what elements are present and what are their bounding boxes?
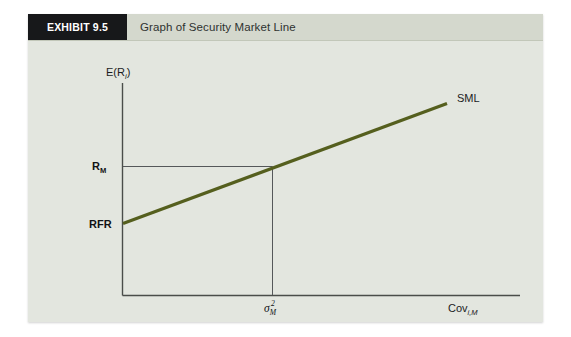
x-axis-label: Covi,M <box>448 302 478 317</box>
rm-label-main: R <box>92 160 100 172</box>
sigma-sup-2: 2 <box>271 299 275 308</box>
y-axis-label: E(Ri) <box>106 66 130 81</box>
exhibit-title: Graph of Security Market Line <box>127 14 543 40</box>
sigma-squared-m-label: σM2 <box>264 299 277 317</box>
security-market-line-chart: E(Ri) SML RM RFR σM2 Covi,M <box>28 40 543 322</box>
chart-plot-area: E(Ri) SML RM RFR σM2 Covi,M <box>28 40 543 322</box>
exhibit-number-tag: EXHIBIT 9.5 <box>28 14 127 40</box>
exhibit-header: EXHIBIT 9.5 Graph of Security Market Lin… <box>28 14 543 41</box>
y-axis-label-close: ) <box>127 66 131 78</box>
rm-label: RM <box>92 160 106 175</box>
x-axis-label-sub: i,M <box>468 308 479 317</box>
y-axis-label-main: E(R <box>106 66 125 78</box>
rm-label-sub: M <box>100 166 106 175</box>
sml-label: SML <box>457 92 480 104</box>
sigma-sub-m: M <box>269 308 277 317</box>
x-axis-label-main: Cov <box>448 302 468 314</box>
exhibit-panel: EXHIBIT 9.5 Graph of Security Market Lin… <box>28 14 543 322</box>
sml-line <box>123 104 447 224</box>
rfr-label: RFR <box>89 218 112 230</box>
